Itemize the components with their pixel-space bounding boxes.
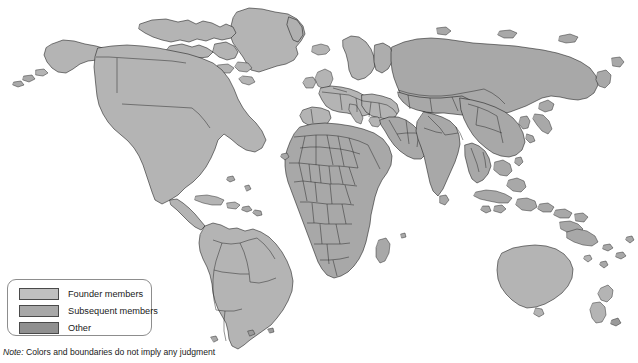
map-legend: Founder members Subsequent members Other <box>7 279 152 336</box>
legend-item-other: Other <box>19 321 91 334</box>
map-note: Note: Colors and boundaries do not imply… <box>3 347 215 357</box>
map-note-text: Colors and boundaries do not imply any j… <box>24 347 216 357</box>
legend-item-founder: Founder members <box>19 287 143 300</box>
world-map-figure: Founder members Subsequent members Other… <box>0 0 638 363</box>
legend-swatch-founder <box>19 288 59 300</box>
legend-label-other: Other <box>68 322 91 334</box>
legend-swatch-other <box>19 322 59 334</box>
legend-label-founder: Founder members <box>68 288 143 300</box>
legend-label-subsequent: Subsequent members <box>68 305 158 317</box>
map-note-keyword: Note: <box>3 347 24 357</box>
legend-item-subsequent: Subsequent members <box>19 304 158 317</box>
legend-swatch-subsequent <box>19 305 59 317</box>
